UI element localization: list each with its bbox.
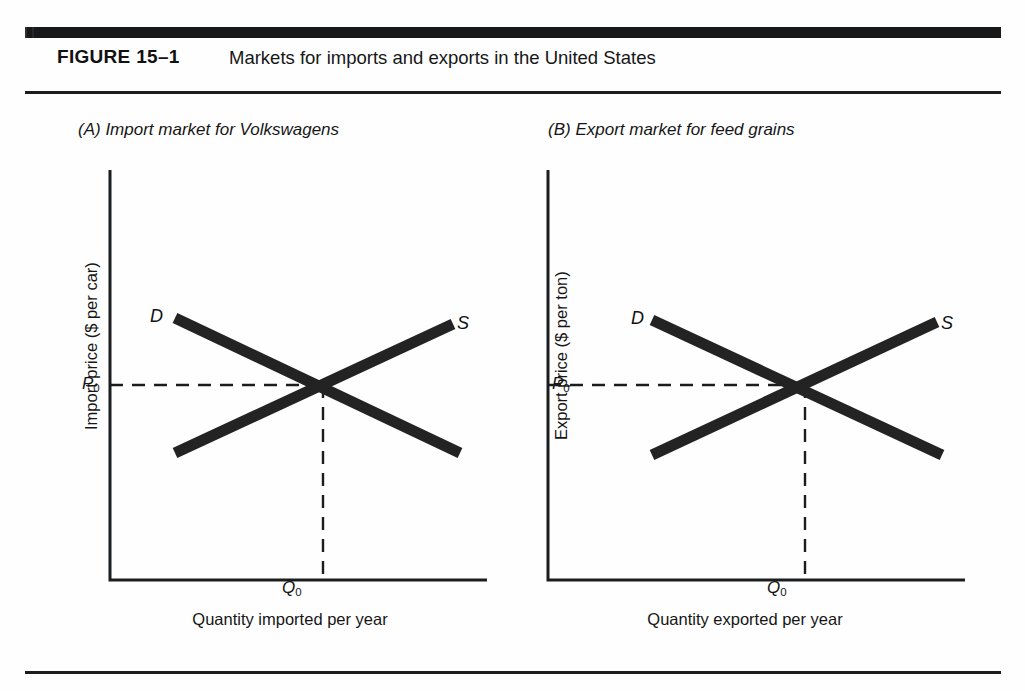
bottom-divider [25,671,1001,674]
chart-panel-a: (A) Import market for Volkswagens Import… [60,110,520,655]
panel-b-x-axis-label: Quantity exported per year [530,610,960,629]
panel-b-axes [548,170,965,580]
panel-a-plot [60,110,520,610]
header-decorative-bar [25,27,1001,38]
page-title: Markets for imports and exports in the U… [229,47,656,69]
panel-a-x-axis-label: Quantity imported per year [60,610,520,629]
panel-b-plot [530,110,1000,610]
top-divider [25,91,1001,94]
chart-panel-b: (B) Export market for feed grains Export… [530,110,1000,655]
figure-page: FIGURE 15–1 Markets for imports and expo… [0,0,1025,691]
figure-number: FIGURE 15–1 [57,46,180,68]
